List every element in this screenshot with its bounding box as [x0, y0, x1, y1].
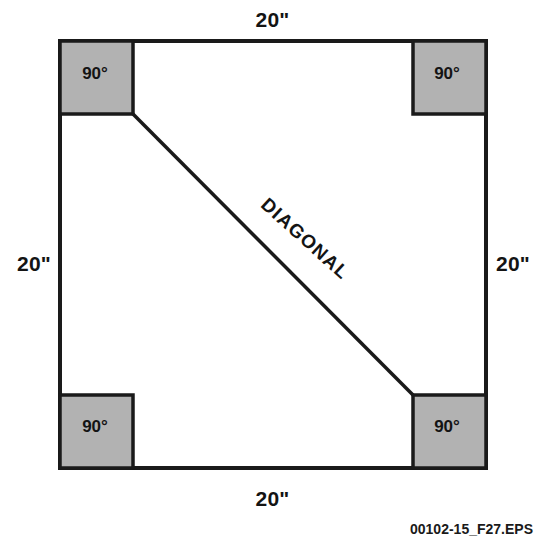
dimension-label-left: 20": [8, 252, 60, 276]
dimension-label-right: 20": [487, 252, 539, 276]
angle-label-top-right: 90°: [412, 64, 482, 84]
dimension-label-bottom: 20": [0, 487, 545, 511]
angle-label-top-left: 90°: [60, 64, 130, 84]
angle-label-bottom-left: 90°: [60, 417, 130, 437]
angle-label-bottom-right: 90°: [412, 417, 482, 437]
dimension-label-top: 20": [0, 8, 545, 32]
diagram-canvas: 20" 20" 20" 20" 90° 90° 90° 90° DIAGONAL…: [0, 0, 545, 555]
eps-file-id: 00102-15_F27.EPS: [0, 521, 533, 537]
